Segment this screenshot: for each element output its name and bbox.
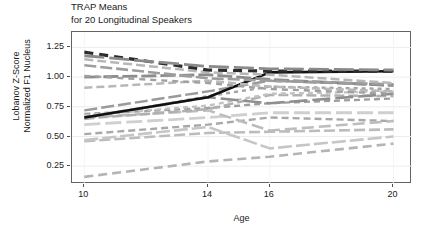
- chart-title-line-1: TRAP Means: [71, 1, 411, 14]
- y-tick-mark: [67, 165, 70, 166]
- y-tick-mark: [67, 136, 70, 137]
- y-axis-label: Lobanov Z-Score Normalized F1 Nucleus: [11, 1, 33, 171]
- chart-title-line-2: for 20 Longitudinal Speakers: [71, 14, 411, 27]
- chart-figure: TRAP Means for 20 Longitudinal Speakers …: [0, 0, 426, 232]
- plot-panel: [71, 31, 411, 183]
- y-tick-label: 1.00: [34, 71, 64, 81]
- x-tick-label: 14: [187, 189, 227, 199]
- x-tick-label: 10: [63, 189, 103, 199]
- y-tick-mark: [67, 46, 70, 47]
- x-tick-mark: [207, 184, 208, 187]
- y-tick-mark: [67, 106, 70, 107]
- series-line-speaker-01: [84, 144, 393, 177]
- x-tick-mark: [83, 184, 84, 187]
- chart-title: TRAP Means for 20 Longitudinal Speakers: [71, 1, 411, 26]
- x-tick-label: 16: [249, 189, 289, 199]
- y-tick-label: 0.50: [34, 131, 64, 141]
- x-tick-mark: [392, 184, 393, 187]
- x-tick-mark: [269, 184, 270, 187]
- x-tick-label: 20: [372, 189, 412, 199]
- y-tick-label: 0.75: [34, 101, 64, 111]
- y-axis-label-line-1: Lobanov Z-Score: [11, 1, 22, 171]
- y-axis-label-line-2: Normalized F1 Nucleus: [22, 1, 33, 171]
- y-tick-mark: [67, 76, 70, 77]
- x-axis-label: Age: [71, 213, 412, 223]
- y-tick-label: 0.25: [34, 160, 64, 170]
- x-tick-label-group: 10141620: [0, 189, 426, 203]
- plot-lines-svg: [72, 32, 412, 184]
- y-tick-label: 1.25: [34, 41, 64, 51]
